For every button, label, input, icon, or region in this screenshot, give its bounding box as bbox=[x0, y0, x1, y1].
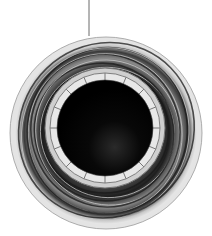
ring-figure bbox=[0, 0, 212, 236]
central-opening bbox=[57, 80, 153, 176]
